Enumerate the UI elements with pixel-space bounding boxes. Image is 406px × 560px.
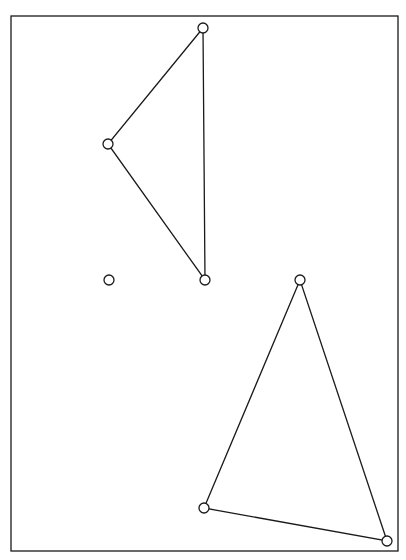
lower-triangle [199, 275, 392, 546]
vertex-circle-icon [198, 23, 208, 33]
upper-triangle [103, 23, 210, 285]
diagram-canvas [0, 0, 406, 560]
upper-triangle-edges [108, 28, 205, 280]
isolated-point-icon [104, 275, 114, 285]
vertex-circle-icon [295, 275, 305, 285]
vertex-circle-icon [103, 139, 113, 149]
lower-triangle-edges [204, 280, 387, 541]
vertex-circle-icon [199, 503, 209, 513]
vertex-circle-icon [200, 275, 210, 285]
vertex-circle-icon [382, 536, 392, 546]
